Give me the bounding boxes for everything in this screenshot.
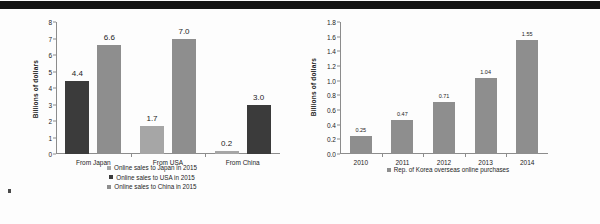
right-chart-x-tick-label: 2014 [520, 159, 534, 166]
left-chart-y-tick-mark [53, 154, 56, 155]
right-chart-bar-value: 0.71 [439, 93, 450, 99]
right-chart-x-tick-mark [506, 154, 507, 157]
legend-label-korea: Rep. of Korea overseas online purchases [394, 166, 510, 173]
right-chart-x-tick-label: 2012 [437, 159, 451, 166]
left-chart-bar [247, 105, 271, 155]
right-chart-y-axis-title: Billions of dollars [310, 58, 317, 116]
left-chart-bar-value: 6.6 [104, 33, 115, 42]
left-chart-y-axis-title: Billions of dollars [32, 60, 39, 118]
left-chart-bar [172, 39, 196, 155]
left-chart-bar [97, 45, 121, 154]
right-chart-y-tick-mark [337, 51, 340, 52]
right-chart-x-tick-label: 2011 [395, 159, 409, 166]
right-chart-bar-value: 0.47 [397, 111, 408, 117]
right-chart-x-tick-mark [423, 154, 424, 157]
left-chart-plot-area: 012345678From JapanFrom USAFrom China4.4… [56, 22, 280, 154]
legend-label-japan: Online sales to Japan in 2015 [114, 164, 197, 171]
right-chart-x-tick-mark [465, 154, 466, 157]
page-canvas: Billions of dollars 012345678From JapanF… [0, 0, 600, 224]
left-chart-x-tick-mark [205, 154, 206, 157]
right-chart-bar-value: 1.04 [480, 69, 491, 75]
left-chart-bar-value: 3.0 [253, 93, 264, 102]
legend-swatch-japan [107, 166, 111, 170]
left-chart-bar-value: 1.7 [146, 114, 157, 123]
right-chart-bar-value: 0.25 [355, 127, 366, 133]
left-chart-y-tick-mark [53, 55, 56, 56]
right-chart-y-tick-mark [337, 110, 340, 111]
legend-swatch-china [107, 185, 111, 189]
right-chart-x-tick-label: 2010 [354, 159, 368, 166]
right-chart-bar-value: 1.55 [522, 31, 533, 37]
right-chart-x-tick-label: 2013 [478, 159, 492, 166]
left-chart-y-tick-mark [53, 22, 56, 23]
right-chart-bar [516, 40, 538, 154]
left-chart-bar-value: 0.2 [221, 139, 232, 148]
right-chart-y-tick-mark [337, 139, 340, 140]
chart-left-online-sales: Billions of dollars 012345678From JapanF… [4, 14, 300, 190]
legend-item-china: Online sales to China in 2015 [107, 183, 196, 190]
legend-item-korea: Rep. of Korea overseas online purchases [387, 166, 510, 173]
legend-swatch-usa [109, 175, 113, 179]
left-chart-bar [215, 151, 239, 154]
right-chart-legend: Rep. of Korea overseas online purchases [300, 166, 596, 173]
right-chart-x-tick-mark [382, 154, 383, 157]
chart-right-korea-purchases: Billions of dollars 0.00.20.40.60.81.01.… [300, 14, 596, 190]
left-chart-bar-value: 4.4 [72, 69, 83, 78]
legend-label-usa: Online sales to USA in 2015 [116, 174, 194, 181]
left-chart-y-tick-mark [53, 38, 56, 39]
top-black-banner [0, 1, 600, 9]
left-chart-y-axis [56, 22, 57, 154]
right-chart-y-tick-mark [337, 154, 340, 155]
right-chart-y-tick-mark [337, 36, 340, 37]
left-chart-bar [65, 81, 89, 154]
right-chart-y-tick-mark [337, 124, 340, 125]
legend-item-japan: Online sales to Japan in 2015 [107, 164, 197, 171]
left-chart-bar-value: 7.0 [178, 27, 189, 36]
right-chart-bar [350, 136, 372, 154]
left-chart-legend: Online sales to Japan in 2015 Online sal… [4, 164, 300, 190]
legend-swatch-korea [387, 168, 391, 172]
right-chart-y-axis [340, 22, 341, 154]
right-chart-plot-area: 0.00.20.40.60.81.01.21.41.61.82010201120… [340, 22, 548, 154]
right-chart-y-tick-mark [337, 22, 340, 23]
left-chart-y-tick-mark [53, 71, 56, 72]
right-chart-y-tick-mark [337, 66, 340, 67]
left-chart-y-tick-mark [53, 88, 56, 89]
right-chart-bar [433, 102, 455, 154]
left-chart-y-tick-mark [53, 137, 56, 138]
right-chart-bar [475, 78, 497, 154]
right-chart-y-tick-mark [337, 80, 340, 81]
right-chart-bar [391, 120, 413, 154]
legend-item-usa: Online sales to USA in 2015 [109, 174, 194, 181]
right-chart-y-tick-mark [337, 95, 340, 96]
left-chart-y-tick-mark [53, 121, 56, 122]
left-chart-x-tick-mark [131, 154, 132, 157]
legend-label-china: Online sales to China in 2015 [114, 183, 196, 190]
left-chart-bar [140, 126, 164, 154]
left-chart-y-tick-mark [53, 104, 56, 105]
